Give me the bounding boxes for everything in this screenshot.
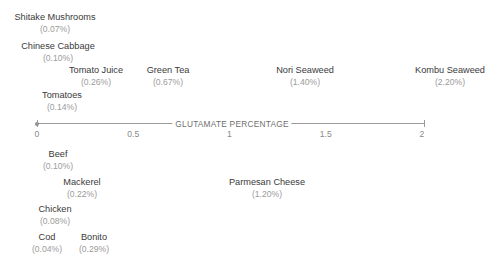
x-axis-title: GLUTAMATE PERCENTAGE [172, 119, 291, 129]
data-point-name: Cod [32, 233, 62, 242]
data-point-value: (1.40%) [276, 78, 334, 87]
data-point-label-below: Bonito(0.29%) [79, 233, 109, 253]
data-point-name: Mackerel [63, 178, 100, 187]
data-point-label-above: Kombu Seaweed(2.20%) [415, 66, 485, 86]
data-point-name: Green Tea [147, 66, 190, 75]
data-point-value: (2.20%) [415, 78, 485, 87]
data-point-name: Beef [43, 150, 73, 159]
data-point-name: Shitake Mushrooms [14, 13, 95, 22]
x-axis-tick-label: 2 [420, 129, 425, 139]
data-point-value: (0.22%) [63, 190, 100, 199]
data-point-label-above: Tomatoes(0.14%) [42, 91, 82, 111]
data-point-value: (0.67%) [147, 78, 190, 87]
data-point-name: Bonito [79, 233, 109, 242]
data-point-name: Nori Seaweed [276, 66, 334, 75]
data-point-label-above: Green Tea(0.67%) [147, 66, 190, 86]
data-point-label-below: Chicken(0.08%) [38, 205, 71, 225]
data-point-label-below: Cod(0.04%) [32, 233, 62, 253]
x-axis-end-cap [424, 120, 425, 127]
data-point-value: (0.26%) [69, 78, 123, 87]
data-point-label-below: Mackerel(0.22%) [63, 178, 100, 198]
data-point-value: (0.10%) [43, 162, 73, 171]
data-point-name: Kombu Seaweed [415, 66, 485, 75]
data-point-value: (0.14%) [42, 103, 82, 112]
data-point-label-above: Shitake Mushrooms(0.07%) [14, 13, 95, 33]
data-point-label-above: Tomato Juice(0.26%) [69, 66, 123, 86]
glutamate-percentage-chart: 00.511.52 GLUTAMATE PERCENTAGE Shitake M… [0, 0, 502, 269]
data-point-name: Chinese Cabbage [21, 42, 95, 51]
data-point-value: (0.04%) [32, 245, 62, 254]
data-point-label-above: Chinese Cabbage(0.10%) [21, 42, 95, 62]
data-point-label-below: Parmesan Cheese(1.20%) [229, 178, 305, 198]
data-point-label-below: Beef(0.10%) [43, 150, 73, 170]
data-point-value: (1.20%) [229, 190, 305, 199]
data-point-value: (0.29%) [79, 245, 109, 254]
data-point-value: (0.10%) [21, 54, 95, 63]
x-axis-start-cap [37, 120, 38, 127]
x-axis-tick-label: 1.5 [320, 129, 332, 139]
data-point-value: (0.08%) [38, 217, 71, 226]
data-point-value: (0.07%) [14, 25, 95, 34]
data-point-name: Tomato Juice [69, 66, 123, 75]
data-point-label-above: Nori Seaweed(1.40%) [276, 66, 334, 86]
data-point-name: Chicken [38, 205, 71, 214]
data-point-name: Tomatoes [42, 91, 82, 100]
x-axis-tick-label: 0.5 [127, 129, 139, 139]
x-axis-tick-label: 1 [227, 129, 232, 139]
data-point-name: Parmesan Cheese [229, 178, 305, 187]
x-axis-tick-label: 0 [35, 129, 40, 139]
